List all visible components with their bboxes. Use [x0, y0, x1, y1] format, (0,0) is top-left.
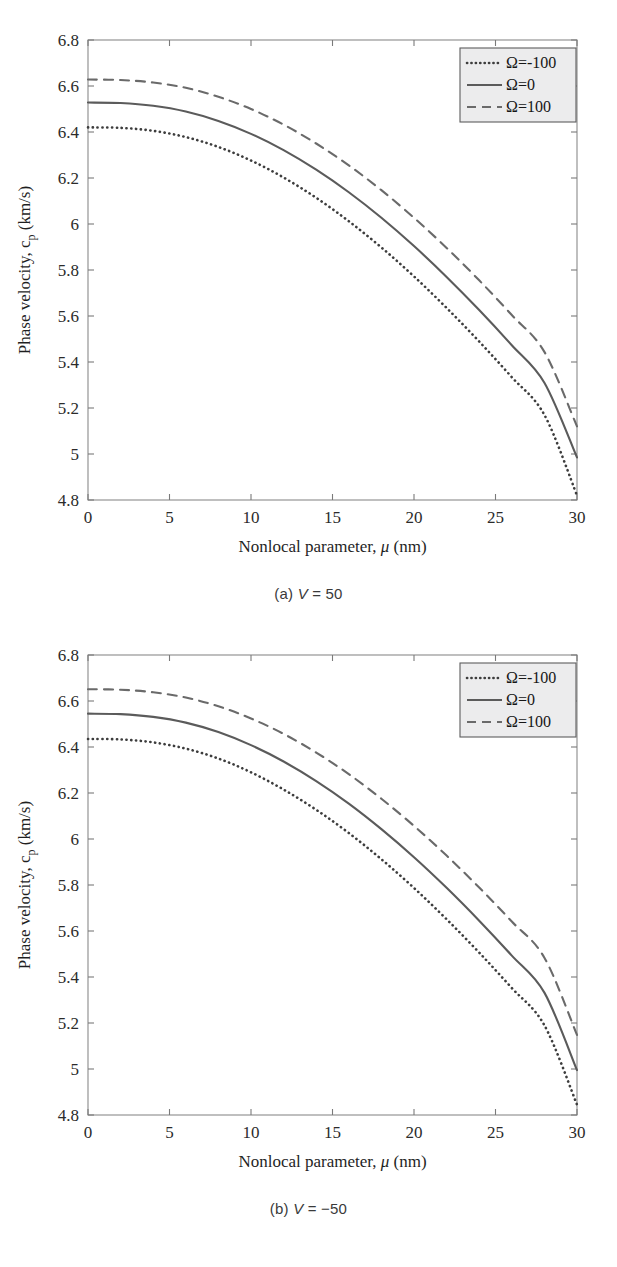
- chart-a-ytick-label: 6: [71, 215, 80, 234]
- chart-a-series-0: [88, 127, 577, 495]
- chart-b-ytick-label: 6.6: [58, 692, 79, 711]
- chart-b-y-axis-title: Phase velocity, cp (km/s): [15, 801, 38, 969]
- chart-a-xtick-label: 25: [487, 508, 504, 527]
- chart-a-xtick-label: 15: [324, 508, 341, 527]
- chart-a-ytick-label: 6.8: [58, 31, 79, 50]
- chart-a-y-axis-title: Phase velocity, cp (km/s): [15, 186, 38, 354]
- chart-a-ytick-label: 5.2: [58, 399, 79, 418]
- chart-a-ytick-label: 6.4: [58, 123, 80, 142]
- phase-velocity-chart-b: 0510152025304.855.25.45.65.866.26.46.66.…: [0, 615, 617, 1200]
- panel-a-caption-value: = 50: [308, 585, 343, 602]
- chart-a-legend-label-2: Ω=100: [506, 98, 551, 115]
- chart-a-xtick-label: 10: [243, 508, 260, 527]
- chart-a-xtick-label: 20: [406, 508, 423, 527]
- chart-b-ytick-label: 4.8: [58, 1106, 79, 1125]
- chart-a-ytick-label: 4.8: [58, 491, 79, 510]
- chart-a-xtick-label: 5: [165, 508, 174, 527]
- panel-a-caption-variable: V: [298, 585, 308, 602]
- chart-a-ytick-label: 5.4: [58, 353, 80, 372]
- chart-b-xtick-label: 30: [569, 1123, 586, 1142]
- chart-b-xtick-label: 25: [487, 1123, 504, 1142]
- chart-a-ytick-label: 5.8: [58, 261, 79, 280]
- chart-panel-b: 0510152025304.855.25.45.65.866.26.46.66.…: [0, 615, 617, 1267]
- chart-a-ytick-label: 6.6: [58, 77, 79, 96]
- panel-b-caption-prefix: (b): [270, 1200, 293, 1217]
- chart-a-series-1: [88, 103, 577, 458]
- chart-b-series-1: [88, 714, 577, 1071]
- panel-b-caption-value: = −50: [303, 1200, 347, 1217]
- chart-b-ytick-label: 6.8: [58, 646, 79, 665]
- chart-a-legend-label-1: Ω=0: [506, 76, 535, 93]
- chart-b-ytick-label: 5.4: [58, 968, 80, 987]
- chart-b-ytick-label: 5.8: [58, 876, 79, 895]
- panel-a-caption-prefix: (a): [274, 585, 297, 602]
- chart-a-ytick-label: 5: [71, 445, 80, 464]
- chart-a-legend-label-0: Ω=-100: [506, 54, 556, 71]
- phase-velocity-chart-a: 0510152025304.855.25.45.65.866.26.46.66.…: [0, 0, 617, 585]
- chart-b-xtick-label: 10: [243, 1123, 260, 1142]
- chart-b-ytick-label: 5.2: [58, 1014, 79, 1033]
- chart-b-ytick-label: 6: [71, 830, 80, 849]
- chart-a-ytick-label: 6.2: [58, 169, 79, 188]
- chart-b-ytick-label: 6.4: [58, 738, 80, 757]
- panel-b-caption: (b) V = −50: [0, 1200, 617, 1217]
- panel-b-caption-variable: V: [293, 1200, 303, 1217]
- chart-a-ytick-label: 5.6: [58, 307, 79, 326]
- chart-b-xtick-label: 20: [406, 1123, 423, 1142]
- chart-b-x-axis-title: Nonlocal parameter, μ (nm): [238, 1152, 426, 1171]
- chart-panel-a: 0510152025304.855.25.45.65.866.26.46.66.…: [0, 0, 617, 615]
- chart-b-xtick-label: 15: [324, 1123, 341, 1142]
- figure-page: 0510152025304.855.25.45.65.866.26.46.66.…: [0, 0, 617, 1267]
- chart-b-ytick-label: 5: [71, 1060, 80, 1079]
- chart-b-legend-label-1: Ω=0: [506, 691, 535, 708]
- chart-b-legend-label-0: Ω=-100: [506, 669, 556, 686]
- chart-b-legend-label-2: Ω=100: [506, 713, 551, 730]
- chart-b-series-0: [88, 739, 577, 1105]
- chart-a-xtick-label: 0: [84, 508, 93, 527]
- chart-a-series-2: [88, 80, 577, 427]
- chart-a-xtick-label: 30: [569, 508, 586, 527]
- chart-a-x-axis-title: Nonlocal parameter, μ (nm): [238, 537, 426, 556]
- chart-b-ytick-label: 5.6: [58, 922, 79, 941]
- chart-b-ytick-label: 6.2: [58, 784, 79, 803]
- chart-b-xtick-label: 0: [84, 1123, 93, 1142]
- panel-a-caption: (a) V = 50: [0, 585, 617, 602]
- chart-b-series-2: [88, 689, 577, 1035]
- chart-b-xtick-label: 5: [165, 1123, 174, 1142]
